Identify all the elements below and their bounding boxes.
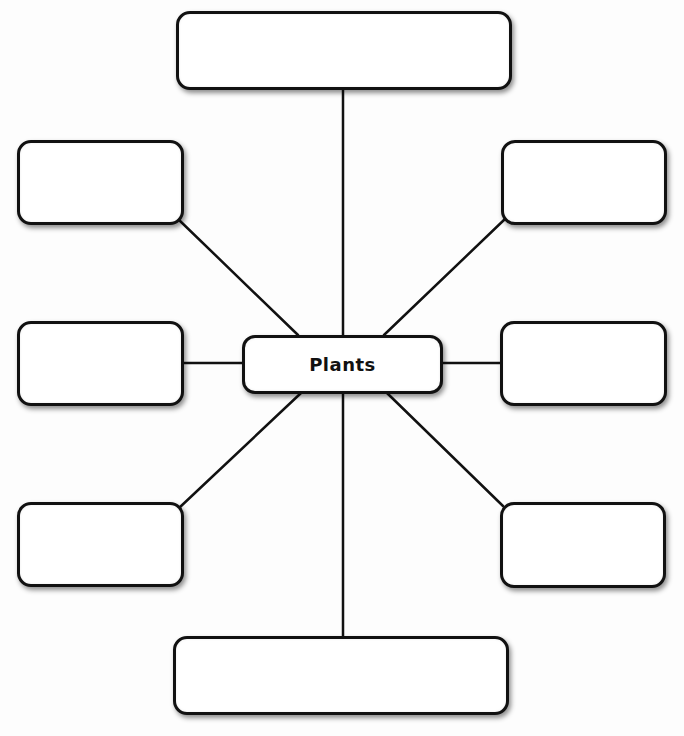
node-lower-right[interactable] <box>500 502 666 588</box>
node-center[interactable]: Plants <box>242 335 443 394</box>
node-upper-right-text[interactable] <box>504 143 664 222</box>
connector-upper-left <box>178 219 298 335</box>
connector-lower-left <box>179 393 301 508</box>
connector-upper-right <box>384 219 505 335</box>
node-upper-right[interactable] <box>501 140 667 225</box>
node-bottom-text[interactable] <box>176 639 506 712</box>
node-top-text[interactable] <box>179 14 509 87</box>
node-lower-left[interactable] <box>17 502 184 587</box>
node-middle-left-text[interactable] <box>20 324 181 403</box>
connector-lower-right <box>387 393 503 506</box>
node-top[interactable] <box>176 11 512 90</box>
node-middle-left[interactable] <box>17 321 184 406</box>
node-upper-left[interactable] <box>17 140 184 225</box>
node-upper-left-text[interactable] <box>20 143 181 222</box>
node-middle-right[interactable] <box>500 321 667 406</box>
node-lower-left-text[interactable] <box>20 505 181 584</box>
node-middle-right-text[interactable] <box>503 324 664 403</box>
node-lower-right-text[interactable] <box>503 505 663 585</box>
node-bottom[interactable] <box>173 636 509 715</box>
diagram-canvas: Plants <box>0 0 684 736</box>
center-label: Plants <box>309 354 376 375</box>
